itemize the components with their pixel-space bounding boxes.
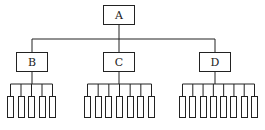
node-b-label: B <box>28 56 36 69</box>
node-d: D <box>199 52 231 72</box>
leaf-node-d-7 <box>241 96 248 118</box>
leaf-node-c-3 <box>105 96 112 118</box>
leaf-node-d-5 <box>220 96 227 118</box>
leaf-node-b-5 <box>49 96 56 118</box>
leaf-node-c-1 <box>84 96 91 118</box>
node-b: B <box>16 52 48 72</box>
node-c: C <box>103 52 135 72</box>
leaf-node-d-3 <box>200 96 207 118</box>
leaf-node-d-8 <box>251 96 258 118</box>
node-root: A <box>103 5 135 25</box>
leaf-node-c-6 <box>137 96 144 118</box>
leaf-node-c-2 <box>95 96 102 118</box>
node-root-label: A <box>115 9 123 22</box>
leaf-node-b-4 <box>39 96 46 118</box>
leaf-node-d-4 <box>210 96 217 118</box>
leaf-node-b-3 <box>28 96 35 118</box>
leaf-node-b-2 <box>18 96 25 118</box>
node-c-label: C <box>115 56 123 69</box>
leaf-node-b-1 <box>7 96 14 118</box>
leaf-node-d-1 <box>179 96 186 118</box>
leaf-node-d-6 <box>230 96 237 118</box>
tree-diagram: A B C D <box>0 0 265 130</box>
leaf-node-c-7 <box>148 96 155 118</box>
leaf-node-c-5 <box>127 96 134 118</box>
node-d-label: D <box>211 56 220 69</box>
leaf-node-c-4 <box>116 96 123 118</box>
leaf-node-d-2 <box>189 96 196 118</box>
